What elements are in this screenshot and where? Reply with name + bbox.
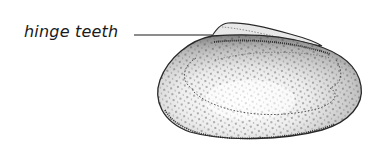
shell-illustration: [0, 0, 381, 152]
shell-valve: [150, 30, 370, 145]
